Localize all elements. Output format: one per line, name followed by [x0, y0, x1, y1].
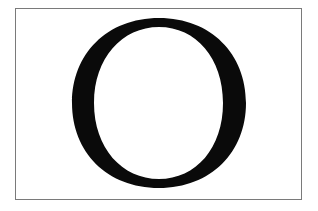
letter-o-glyph	[0, 0, 318, 211]
